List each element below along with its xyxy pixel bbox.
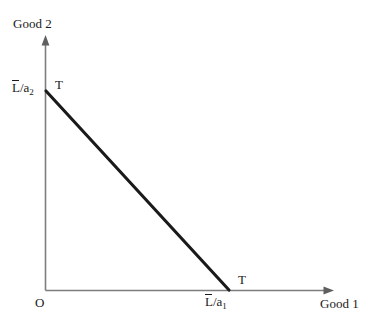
curve-label-bottom: T [238, 273, 246, 286]
origin-label: O [35, 296, 44, 309]
x-axis-arrowhead [324, 287, 335, 295]
curve-label-top: T [55, 78, 63, 91]
x-intercept-numerator: L [205, 294, 213, 308]
ppf-diagram: Good 2 Good 1 O L/a2 L/a1 T T [0, 0, 370, 323]
y-intercept-numerator: L [12, 80, 20, 94]
x-intercept-subscript: 1 [222, 301, 227, 311]
diagram-canvas [0, 0, 370, 323]
y-intercept-fraction: L/a2 [12, 80, 34, 97]
x-intercept-fraction: L/a1 [205, 294, 227, 311]
y-axis-arrowhead [42, 35, 50, 46]
production-possibility-frontier [46, 91, 229, 290]
y-intercept-subscript: 2 [29, 87, 34, 97]
y-axis-label: Good 2 [13, 17, 52, 30]
y-intercept-label: L/a2 [12, 80, 34, 97]
x-axis-label: Good 1 [320, 297, 359, 310]
x-intercept-label: L/a1 [205, 294, 227, 311]
